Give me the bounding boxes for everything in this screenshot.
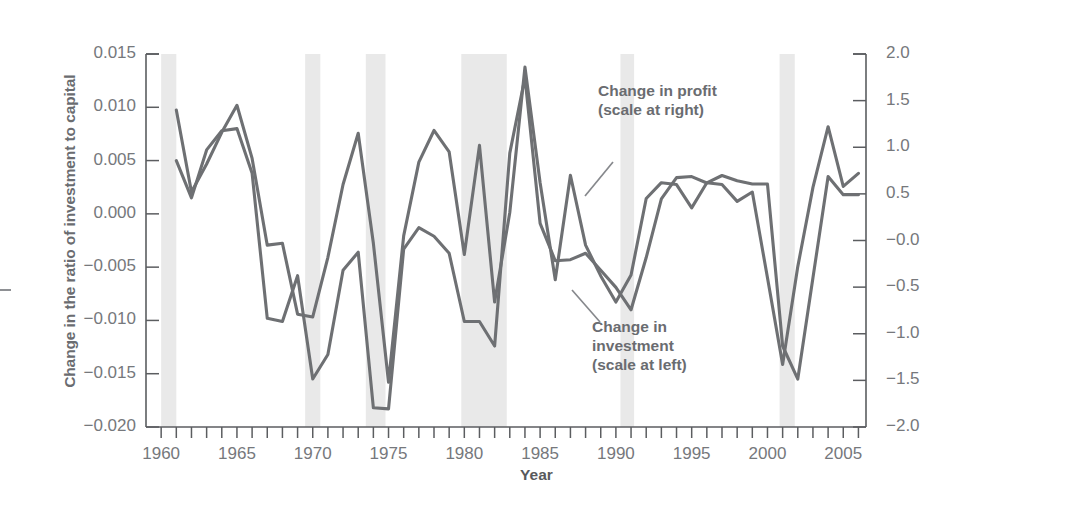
x-tick-label-1980: 1980: [424, 444, 504, 464]
annotation-investment-line2: investment: [592, 337, 687, 356]
x-tick-label-1975: 1975: [349, 444, 429, 464]
ytick-right-3: 0.5: [886, 183, 966, 203]
x-tick-label-1970: 1970: [273, 444, 353, 464]
annotation-change-in-investment: Change in investment (scale at left): [592, 318, 687, 375]
ytick-right-4: −0.0: [886, 230, 966, 250]
x-tick-label-1985: 1985: [500, 444, 580, 464]
annotation-investment-line1: Change in: [592, 318, 687, 337]
data-series-group: [176, 67, 858, 409]
recession-band-3: [461, 54, 506, 427]
ytick-left-4: −0.005: [4, 256, 136, 276]
ytick-left-5: −0.010: [4, 309, 136, 329]
ytick-right-1: 1.5: [886, 90, 966, 110]
leader-profit: [585, 162, 613, 196]
ytick-left-0: 0.015: [4, 43, 136, 63]
x-tick-label-1990: 1990: [576, 444, 656, 464]
ytick-right-8: −2.0: [886, 416, 966, 436]
ytick-left-7: −0.020: [4, 416, 136, 436]
ytick-right-2: 1.0: [886, 136, 966, 156]
recession-band-0: [161, 54, 176, 427]
annotation-investment-line3: (scale at left): [592, 356, 687, 375]
ytick-left-6: −0.015: [4, 363, 136, 383]
x-tick-label-1965: 1965: [197, 444, 277, 464]
ytick-right-7: −1.5: [886, 369, 966, 389]
x-tick-label-1995: 1995: [652, 444, 732, 464]
ytick-right-0: 2.0: [886, 43, 966, 63]
annotation-profit-line1: Change in profit: [598, 82, 717, 101]
ytick-left-1: 0.010: [4, 96, 136, 116]
x-tick-label-2005: 2005: [803, 444, 883, 464]
x-tick-label-2000: 2000: [727, 444, 807, 464]
ytick-right-5: −0.5: [886, 276, 966, 296]
annotation-profit-line2: (scale at right): [598, 101, 717, 120]
annotation-change-in-profit: Change in profit (scale at right): [598, 82, 717, 120]
annotation-leader-lines: [572, 162, 613, 322]
x-tick-label-1960: 1960: [121, 444, 201, 464]
ytick-right-6: −1.0: [886, 323, 966, 343]
ytick-left-3: 0.000: [4, 203, 136, 223]
chart-figure: Change in the ratio of investment to cap…: [0, 0, 1073, 509]
ytick-left-2: 0.005: [4, 150, 136, 170]
